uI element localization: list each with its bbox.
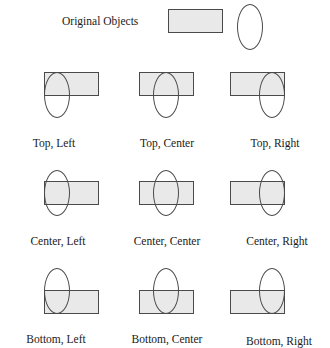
cell-stage	[218, 160, 328, 234]
ellipse-shape	[44, 72, 70, 118]
alignment-cell-center-center: Center, Center	[112, 160, 222, 256]
alignment-cell-center-right: Center, Right	[218, 160, 328, 256]
alignment-cell-top-center: Top, Center	[112, 62, 222, 158]
cell-stage	[3, 160, 113, 234]
alignment-cell-bottom-center: Bottom, Center	[112, 258, 222, 348]
cell-label: Center, Center	[112, 234, 222, 248]
cell-label: Bottom, Right	[224, 334, 330, 348]
cell-label: Center, Left	[3, 234, 113, 248]
alignment-cell-top-right: Top, Right	[218, 62, 328, 158]
alignment-cell-center-left: Center, Left	[3, 160, 113, 256]
cell-label: Top, Left	[0, 136, 109, 150]
cell-label: Center, Right	[222, 234, 330, 248]
cell-stage	[218, 258, 328, 332]
alignment-cell-top-left: Top, Left	[3, 62, 113, 158]
ellipse-shape	[259, 170, 285, 216]
original-ellipse-shape	[237, 4, 263, 50]
original-objects-row: Original Objects	[0, 0, 330, 56]
original-objects-label: Original Objects	[62, 14, 166, 28]
ellipse-shape	[153, 268, 179, 314]
cell-stage	[3, 62, 113, 136]
ellipse-shape	[44, 170, 70, 216]
cell-stage	[112, 62, 222, 136]
cell-stage	[112, 160, 222, 234]
cell-label: Top, Center	[112, 136, 222, 150]
ellipse-shape	[153, 170, 179, 216]
original-rectangle-shape	[168, 9, 223, 33]
alignment-cell-bottom-right: Bottom, Right	[218, 258, 328, 348]
alignment-cell-bottom-left: Bottom, Left	[3, 258, 113, 348]
cell-label: Bottom, Center	[112, 332, 222, 346]
cell-label: Top, Right	[220, 136, 330, 150]
cell-stage	[218, 62, 328, 136]
cell-stage	[112, 258, 222, 332]
cell-stage	[3, 258, 113, 332]
ellipse-shape	[259, 268, 285, 314]
ellipse-shape	[259, 72, 285, 118]
cell-label: Bottom, Left	[1, 332, 111, 346]
alignment-diagram: Original Objects Top, Left Top, Center T…	[0, 0, 330, 348]
ellipse-shape	[153, 72, 179, 118]
ellipse-shape	[44, 268, 70, 314]
